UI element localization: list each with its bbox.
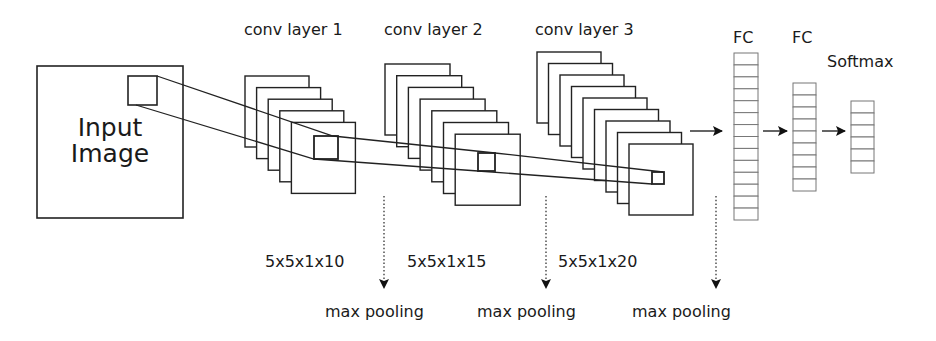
- conv-layer-2-label: conv layer 2: [384, 22, 483, 38]
- neuron-cell: [734, 148, 758, 160]
- conv-1-kernel-label: 5x5x1x10: [265, 254, 344, 270]
- neuron-cell: [734, 77, 758, 89]
- neuron-cell: [793, 119, 816, 131]
- feature-map: [629, 144, 693, 215]
- neuron-cell: [793, 107, 816, 119]
- neuron-cell: [793, 131, 816, 143]
- neuron-cell: [734, 160, 758, 172]
- neuron-cell: [793, 95, 816, 107]
- neuron-cell: [734, 101, 758, 113]
- diagram-drawing: [0, 0, 936, 341]
- dense-layer-3: [851, 101, 874, 173]
- input-receptive-field: [128, 76, 157, 105]
- cnn-diagram: Input Image conv layer 1 conv layer 2 co…: [0, 0, 936, 341]
- conv-layer-2-stack: [385, 64, 520, 205]
- neuron-cell: [793, 179, 816, 191]
- neuron-cell: [734, 172, 758, 184]
- neuron-cell: [851, 137, 874, 149]
- neuron-cell: [793, 143, 816, 155]
- fc-1-label: FC: [733, 30, 753, 46]
- neuron-cell: [851, 101, 874, 113]
- input-image-label-line2: Image: [37, 141, 183, 167]
- neuron-cell: [734, 137, 758, 149]
- fc-2-label: FC: [792, 30, 812, 46]
- neuron-cell: [793, 83, 816, 95]
- neuron-cell: [734, 196, 758, 208]
- neuron-cell: [851, 125, 874, 137]
- conv-layer-1-stack: [245, 76, 355, 193]
- conv-layer-3-label: conv layer 3: [535, 22, 634, 38]
- dense-layers: [734, 53, 874, 220]
- neuron-cell: [734, 208, 758, 220]
- neuron-cell: [734, 53, 758, 65]
- conv-3-kernel-label: 5x5x1x20: [558, 254, 637, 270]
- pooling-1-label: max pooling: [325, 304, 424, 320]
- conv-2-kernel-label: 5x5x1x15: [407, 254, 486, 270]
- pooling-3-label: max pooling: [632, 304, 731, 320]
- conv-layer-3-stack: [537, 52, 693, 215]
- conv-stacks: [245, 52, 693, 215]
- neuron-cell: [734, 89, 758, 101]
- neuron-cell: [793, 167, 816, 179]
- input-image-label-line1: Input: [37, 115, 183, 141]
- neuron-cell: [851, 149, 874, 161]
- pooling-2-label: max pooling: [477, 304, 576, 320]
- neuron-cell: [734, 125, 758, 137]
- neuron-cell: [734, 113, 758, 125]
- neuron-cell: [734, 184, 758, 196]
- neuron-cell: [851, 161, 874, 173]
- conv-layer-1-label: conv layer 1: [244, 22, 343, 38]
- dense-layer-1: [734, 53, 758, 220]
- neuron-cell: [793, 155, 816, 167]
- dense-layer-2: [793, 83, 816, 191]
- neuron-cell: [851, 113, 874, 125]
- softmax-label: Softmax: [827, 54, 893, 70]
- neuron-cell: [734, 65, 758, 77]
